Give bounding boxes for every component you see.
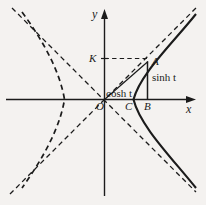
y-axis-arrow [101,9,108,19]
point-label-B: B [144,101,151,112]
point-label-A: A [152,56,159,67]
point-label-K: K [89,53,96,64]
cosh-t-label: cosh t [106,88,132,99]
sinh-t-label: sinh t [152,72,176,83]
y-axis-label: y [92,8,97,20]
point-label-C: C [125,101,132,112]
x-axis-label: x [186,103,191,115]
point-label-O: O [96,101,104,112]
